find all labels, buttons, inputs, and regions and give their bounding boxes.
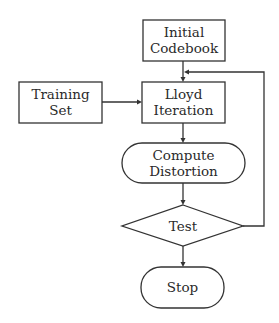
lloyd-iteration-line1: Lloyd (165, 86, 203, 102)
edge-lloyd-to-compute (181, 123, 186, 143)
node-lloyd-iteration: Lloyd Iteration (142, 82, 225, 123)
training-set-line1: Training (31, 86, 90, 102)
stop-label: Stop (167, 279, 198, 295)
edge-test-to-stop (181, 246, 186, 267)
compute-distortion-line1: Compute (152, 147, 214, 163)
node-test: Test (122, 205, 243, 246)
edge-compute-to-test (181, 183, 186, 205)
edge-training-to-lloyd (102, 100, 142, 105)
training-set-line2: Set (49, 102, 72, 118)
initial-codebook-line1: Initial (164, 24, 204, 40)
node-training-set: Training Set (19, 82, 102, 123)
lloyd-iteration-line2: Iteration (154, 102, 214, 118)
initial-codebook-line2: Codebook (150, 40, 219, 56)
node-initial-codebook: Initial Codebook (143, 20, 225, 61)
node-compute-distortion: Compute Distortion (122, 143, 245, 183)
edge-codebook-to-lloyd (181, 61, 186, 82)
flowchart: Initial Codebook Training Set Lloyd Iter… (0, 0, 279, 323)
node-stop: Stop (141, 267, 224, 308)
test-label: Test (169, 218, 198, 234)
compute-distortion-line2: Distortion (149, 163, 218, 179)
